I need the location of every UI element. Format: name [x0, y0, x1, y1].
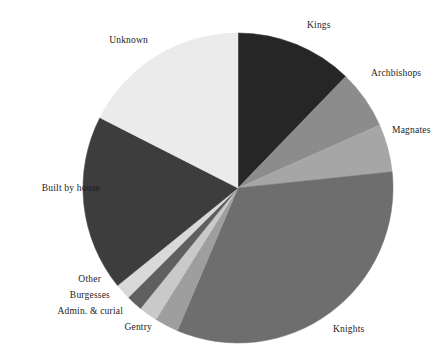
pie-label-built-by-house: Built by house — [42, 184, 100, 194]
pie-label-magnates: Magnates — [392, 126, 431, 136]
pie-chart: KingsArchbishopsMagnatesKnightsGentryAdm… — [0, 0, 447, 361]
pie-slices-group — [83, 33, 393, 343]
pie-label-archbishops: Archbishops — [371, 69, 421, 79]
pie-label-unknown: Unknown — [109, 36, 148, 46]
pie-label-kings: Kings — [307, 21, 331, 31]
pie-label-burgesses: Burgesses — [70, 291, 110, 301]
pie-label-admin-curial: Admin. & curial — [57, 307, 123, 317]
pie-label-other: Other — [78, 275, 101, 285]
pie-label-knights: Knights — [333, 325, 365, 335]
pie-label-gentry: Gentry — [124, 323, 152, 333]
